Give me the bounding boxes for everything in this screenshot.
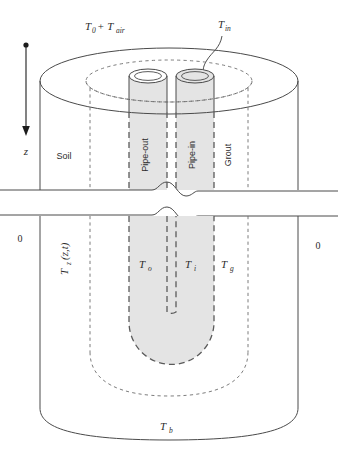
zero-label-right: 0 [316,240,321,251]
grout-top-ellipse-front-arc [86,81,252,102]
pipe-out-top-ellipse-inner [135,72,162,81]
pipe-in-fill-upper [176,75,214,190]
depth-axis-arrow-group [22,42,30,136]
surface-temperature-label: T [85,20,92,32]
depth-axis-arrowhead [22,126,30,136]
soil-cylinder-bottom-arc [40,408,298,440]
inlet-temperature-label: T [218,18,225,30]
soil-temperature-arguments: (z,t) [58,242,71,260]
borehole-heat-exchanger-diagram: z T 0 + T air T in [0,0,338,460]
surface-temperature-operator: + T [97,20,114,32]
grout-region-label: Grout [223,143,233,166]
pipe-out-temperature-subscript: o [148,264,152,273]
pipe-in-region-label: Pipe-in [187,141,197,169]
break-line-upper [0,182,338,196]
surface-temperature-air-subscript: air [116,26,125,35]
grout-temperature-label: T [221,258,228,270]
grout-temperature-subscript: g [230,264,234,273]
soil-temperature-label-group: T z (z,t) [58,242,73,275]
bottom-temperature-label: T [160,420,167,432]
pipe-in-top-ellipse-inner [182,72,209,81]
u-tube-fill-lower [129,216,214,364]
zero-label-left: 0 [18,233,23,244]
inlet-temperature-subscript: in [225,24,231,33]
soil-temperature-subscript: z [64,262,73,266]
surface-temperature-label-group: T 0 + T air [85,20,125,35]
grout-temperature-label-group: T g [221,258,234,273]
inlet-leader-line [203,36,222,74]
pipe-out-temperature-label: T [139,258,146,270]
soil-region-label: Soil [56,151,71,161]
depth-axis-label: z [23,145,29,157]
pipe-in-temperature-subscript: i [194,264,196,273]
pipe-in-temperature-label: T [185,258,192,270]
bottom-temperature-subscript: b [169,426,173,435]
bottom-temperature-label-group: T b [160,420,173,435]
surface-temperature-subscript: 0 [92,26,96,35]
soil-cylinder-top-ellipse [40,48,298,114]
pipe-out-region-label: Pipe-out [140,138,150,172]
diagram-canvas: z T 0 + T air T in [0,0,338,460]
soil-temperature-label: T [58,268,70,275]
inlet-temperature-label-group: T in [218,18,231,33]
